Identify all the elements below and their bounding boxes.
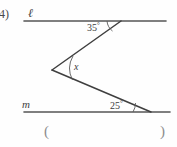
answer-close-paren: ) (160, 124, 165, 139)
angle-label-35: 35° (87, 22, 100, 33)
angle-25-value: 25 (110, 100, 120, 111)
transversal-lower-segment (52, 70, 151, 112)
angle-label-25: 25° (110, 100, 123, 111)
angle-35-value: 35 (87, 22, 97, 33)
line-m-label: m (22, 99, 30, 110)
problem-number: 4) (0, 8, 9, 20)
angle-arc-x (70, 56, 73, 80)
angle-label-x: x (74, 62, 78, 72)
figure-page: 4) ℓ m 35° x 25° ( ) (0, 0, 177, 147)
answer-open-paren: ( (44, 124, 49, 139)
line-l-label: ℓ (28, 7, 33, 19)
degree-symbol-35: ° (97, 21, 100, 29)
degree-symbol-25: ° (120, 99, 123, 107)
